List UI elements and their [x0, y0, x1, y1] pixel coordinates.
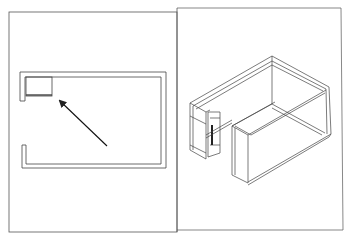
plan-walls: [20, 72, 166, 168]
plan-view-panel: [9, 12, 177, 232]
iso-front-wall: [232, 90, 326, 183]
isometric-view-panel: [177, 8, 343, 230]
arrow-icon: [60, 101, 107, 146]
plan-view-frame: [9, 12, 177, 232]
diagram-svg: [0, 0, 354, 238]
iso-corner-box: [190, 103, 232, 159]
diagram-canvas: [0, 0, 354, 238]
plan-corner-box: [26, 77, 52, 96]
iso-back-walls: [190, 56, 331, 185]
